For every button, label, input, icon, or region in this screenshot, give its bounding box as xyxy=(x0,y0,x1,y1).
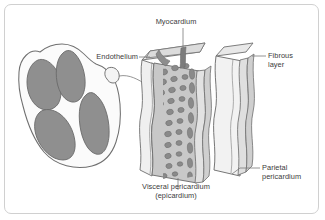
heart-wall-tissue-block xyxy=(140,43,212,183)
label-visceral-pericardium: Visceral pericardium (epicardium) xyxy=(118,182,234,200)
label-endothelium: Endothelium xyxy=(60,52,138,61)
label-fibrous-layer-line1: Fibrous xyxy=(268,51,320,60)
label-myocardium: Myocardium xyxy=(131,17,221,26)
heart-cross-section xyxy=(19,44,121,167)
label-fibrous-layer-line2: layer xyxy=(268,60,320,69)
figure-root: Myocardium Endothelium Fibrous layer Par… xyxy=(0,0,325,220)
label-visceral-line2: (epicardium) xyxy=(118,191,234,200)
label-parietal-line1: Parietal xyxy=(262,163,322,172)
label-parietal-line2: pericardium xyxy=(262,172,322,181)
label-fibrous-layer: Fibrous layer xyxy=(268,51,320,69)
label-parietal-pericardium: Parietal pericardium xyxy=(262,163,322,181)
parietal-pericardium-slab xyxy=(214,43,255,176)
label-visceral-line1: Visceral pericardium xyxy=(118,182,234,191)
